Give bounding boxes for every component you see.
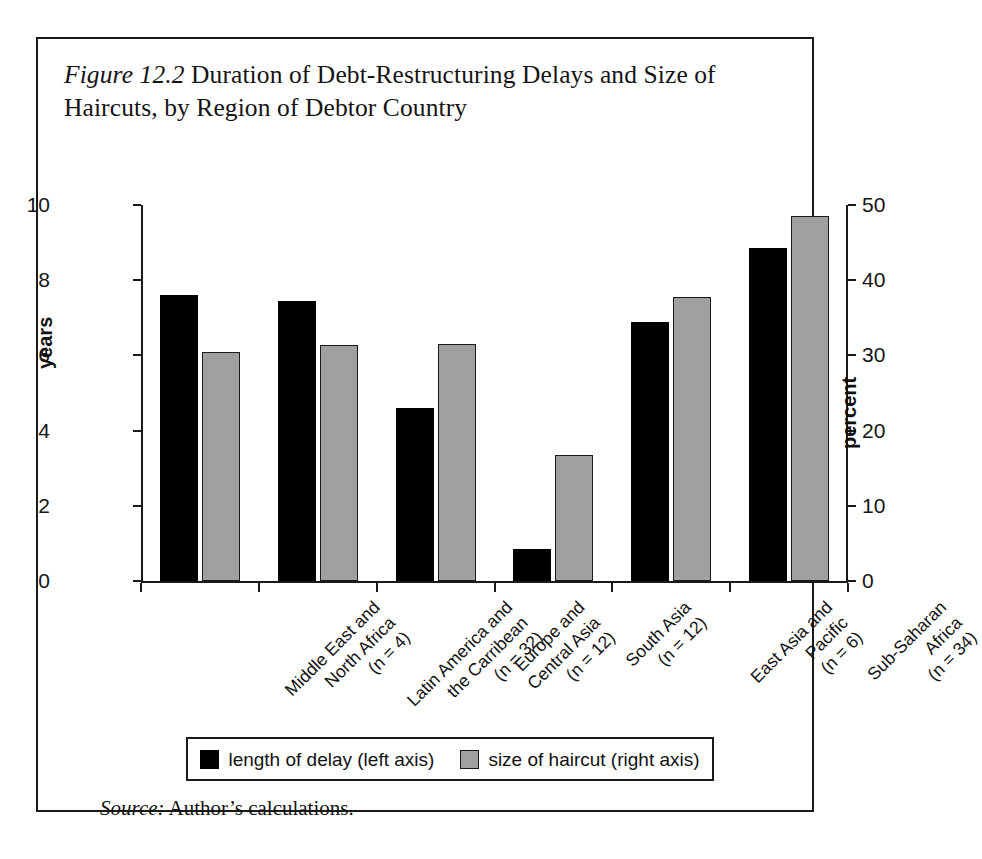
legend-swatch-delay-icon (200, 750, 219, 769)
bar-delay-4 (631, 322, 669, 581)
x-tick-4 (611, 583, 613, 592)
bar-delay-3 (513, 549, 551, 581)
y-axis-right-title: percent (838, 377, 861, 449)
x-tick-2 (376, 583, 378, 592)
source-label: Source: (100, 796, 165, 820)
bar-delay-1 (278, 301, 316, 581)
bar-haircut-2 (438, 344, 476, 581)
x-category-label-3: South Asia(n = 12) (622, 597, 712, 687)
bar-delay-2 (396, 408, 434, 581)
y-tick-left-8 (133, 279, 141, 281)
x-tick-1 (258, 583, 260, 592)
y-tick-label-right-30: 30 (862, 344, 922, 365)
bar-delay-5 (749, 248, 787, 581)
bar-delay-0 (160, 295, 198, 581)
y-axis-left-line (141, 205, 143, 583)
y-tick-label-right-10: 10 (862, 495, 922, 516)
y-tick-right-50 (848, 204, 856, 206)
bar-haircut-3 (555, 455, 593, 581)
y-tick-label-left-2: 2 (0, 495, 50, 516)
x-tick-0 (140, 583, 142, 592)
x-category-label-5: Sub-SaharanAfrica(n = 34) (863, 597, 982, 716)
y-tick-label-right-50: 50 (862, 194, 922, 215)
x-tick-5 (729, 583, 731, 592)
y-axis-left-title: years (34, 317, 57, 369)
legend-label-delay: length of delay (left axis) (228, 750, 434, 769)
bar-haircut-0 (202, 352, 240, 581)
y-tick-label-right-20: 20 (862, 420, 922, 441)
y-tick-left-6 (133, 354, 141, 356)
bar-haircut-5 (791, 216, 829, 581)
source-text: Author’s calculations. (165, 796, 354, 820)
y-tick-right-40 (848, 279, 856, 281)
legend-swatch-haircut-icon (460, 750, 479, 769)
figure-frame: Figure 12.2 Duration of Debt-Restructuri… (36, 37, 814, 812)
x-category-label-4: East Asia andPacific(n = 6) (747, 597, 869, 719)
y-tick-right-0 (848, 580, 856, 582)
x-tick-6 (847, 583, 849, 592)
y-tick-left-4 (133, 430, 141, 432)
x-category-label-0: Middle East andNorth Africa(n = 4) (281, 597, 416, 732)
y-tick-label-left-8: 8 (0, 269, 50, 290)
y-tick-label-left-10: 10 (0, 194, 50, 215)
y-tick-left-0 (133, 580, 141, 582)
source-note: Source: Author’s calculations. (100, 796, 354, 821)
y-tick-label-left-0: 0 (0, 570, 50, 591)
legend-entry-delay: length of delay (left axis) (200, 750, 434, 769)
y-tick-left-10 (133, 204, 141, 206)
legend-label-haircut: size of haircut (right axis) (488, 750, 699, 769)
figure-title: Figure 12.2 Duration of Debt-Restructuri… (64, 59, 764, 124)
y-tick-label-left-4: 4 (0, 420, 50, 441)
y-tick-label-right-40: 40 (862, 269, 922, 290)
bar-haircut-4 (673, 297, 711, 581)
y-tick-right-30 (848, 354, 856, 356)
figure-number: Figure 12.2 (64, 60, 185, 89)
y-tick-right-10 (848, 505, 856, 507)
legend-entry-haircut: size of haircut (right axis) (460, 750, 699, 769)
x-category-label-2: Europe andCentral Asia(n = 12) (507, 597, 620, 710)
y-tick-label-right-0: 0 (862, 570, 922, 591)
y-tick-left-2 (133, 505, 141, 507)
x-tick-3 (494, 583, 496, 592)
chart-legend: length of delay (left axis) size of hair… (186, 737, 714, 781)
bar-haircut-1 (320, 345, 358, 581)
